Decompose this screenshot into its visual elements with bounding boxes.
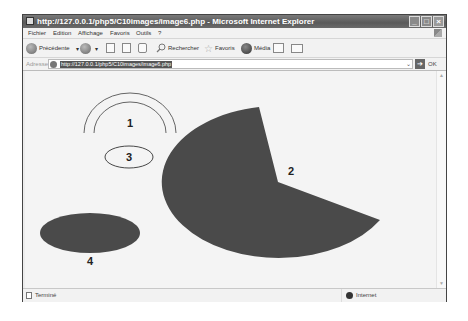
scroll-down-icon[interactable]: ▼ <box>438 280 445 287</box>
title-bar[interactable]: http://127.0.0.1/php5/C10images/image6.p… <box>23 15 446 28</box>
media-label: Média <box>254 45 270 51</box>
favorites-button[interactable]: ☆ Favoris <box>204 39 235 57</box>
back-button[interactable]: Précédente ▾ <box>26 39 79 57</box>
menu-affichage[interactable]: Affichage <box>78 28 103 38</box>
forward-dropdown-icon[interactable]: ▾ <box>95 45 98 52</box>
address-input[interactable]: http://127.0.0.1/php5/C10images/image6.p… <box>48 59 413 69</box>
shape-1-double-arc: 1 <box>84 93 176 133</box>
print-button[interactable] <box>273 39 284 57</box>
status-text: Terminé <box>35 289 56 302</box>
address-bar: Adresse http://127.0.0.1/php5/C10images/… <box>23 58 446 71</box>
address-label: Adresse <box>26 58 48 70</box>
menu-edition[interactable]: Edition <box>53 28 71 38</box>
menu-favoris[interactable]: Favoris <box>110 28 130 38</box>
back-dropdown-icon[interactable]: ▾ <box>76 45 79 52</box>
address-url: http://127.0.0.1/php5/C10images/image6.p… <box>60 61 172 68</box>
search-icon <box>156 43 166 53</box>
search-button[interactable]: Rechercher <box>156 39 199 57</box>
shape-1-label: 1 <box>127 117 133 129</box>
shape-3-label: 3 <box>126 151 132 163</box>
page-content: 1 3 2 4 <box>25 71 436 288</box>
favorites-label: Favoris <box>215 45 235 51</box>
page-done-icon <box>26 292 32 299</box>
scroll-up-icon[interactable]: ▲ <box>438 72 445 79</box>
back-label: Précédente <box>39 45 70 51</box>
shape-2-filled-pie: 2 <box>162 107 380 258</box>
shape-3-ellipse-outline: 3 <box>105 146 153 168</box>
vertical-scrollbar[interactable]: ▲ ▼ <box>436 71 446 288</box>
address-dropdown-icon[interactable]: ⌄ <box>406 60 411 68</box>
printer-icon <box>273 43 284 53</box>
media-globe-icon <box>241 43 252 54</box>
shape-4-filled-ellipse: 4 <box>40 213 140 267</box>
search-label: Rechercher <box>168 45 199 51</box>
stop-icon <box>106 43 115 53</box>
browser-window: http://127.0.0.1/php5/C10images/image6.p… <box>22 14 447 302</box>
menu-help[interactable]: ? <box>158 28 161 38</box>
windows-logo-icon <box>434 29 442 37</box>
stop-button[interactable] <box>106 39 115 57</box>
back-arrow-icon <box>26 43 37 54</box>
shape-2-label: 2 <box>288 165 294 177</box>
internet-zone-icon <box>346 292 353 299</box>
forward-button[interactable]: ▾ <box>80 39 98 57</box>
window-title: http://127.0.0.1/php5/C10images/image6.p… <box>37 15 314 28</box>
close-button[interactable]: × <box>433 16 444 27</box>
mail-icon <box>291 44 303 53</box>
home-icon <box>138 43 147 53</box>
image-canvas: 1 3 2 4 <box>25 71 436 288</box>
maximize-button[interactable]: □ <box>421 16 432 27</box>
mail-button[interactable] <box>291 39 303 57</box>
minimize-button[interactable]: _ <box>409 16 420 27</box>
page-favicon-icon <box>50 61 57 68</box>
go-button[interactable]: OK <box>428 58 437 70</box>
status-bar: Terminé Internet <box>23 288 446 302</box>
shape-4-label: 4 <box>87 255 94 267</box>
zone-text: Internet <box>356 289 376 302</box>
star-icon: ☆ <box>204 43 213 54</box>
menu-bar: Fichier Edition Affichage Favoris Outils… <box>23 28 446 39</box>
go-arrow-icon[interactable]: ➔ <box>415 59 425 69</box>
media-button[interactable]: Média <box>241 39 270 57</box>
menu-fichier[interactable]: Fichier <box>28 28 46 38</box>
refresh-icon <box>122 43 131 53</box>
ie-page-icon <box>26 17 34 25</box>
forward-arrow-icon <box>80 43 91 54</box>
toolbar: Précédente ▾ ▾ Rechercher ☆ Favoris Médi… <box>23 39 446 58</box>
refresh-button[interactable] <box>122 39 131 57</box>
menu-outils[interactable]: Outils <box>136 28 151 38</box>
home-button[interactable] <box>138 39 147 57</box>
